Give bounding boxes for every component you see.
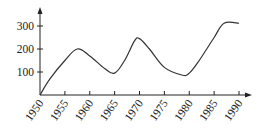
x-tick-label: 1980 bbox=[172, 97, 195, 123]
y-tick-label: 200 bbox=[17, 43, 35, 55]
x-tick-label: 1975 bbox=[147, 97, 170, 123]
axes bbox=[38, 7, 253, 98]
x-tick-label: 1990 bbox=[222, 97, 245, 123]
x-tick-label: 1950 bbox=[23, 97, 46, 123]
x-tick-label: 1965 bbox=[97, 97, 120, 123]
data-line bbox=[40, 22, 239, 95]
y-ticks: 100200300 bbox=[17, 20, 43, 78]
x-ticks: 195019551960196519701975198019851990 bbox=[23, 91, 245, 123]
x-tick-label: 1960 bbox=[72, 97, 95, 123]
x-tick-label: 1985 bbox=[197, 97, 220, 123]
line-chart: 195019551960196519701975198019851990 100… bbox=[0, 0, 264, 139]
y-axis-arrow-icon bbox=[38, 7, 43, 14]
x-axis-arrow-icon bbox=[245, 93, 252, 98]
y-tick-label: 100 bbox=[17, 66, 35, 78]
y-tick-label: 300 bbox=[17, 20, 35, 32]
x-tick-label: 1955 bbox=[47, 97, 70, 123]
x-tick-label: 1970 bbox=[122, 97, 145, 123]
